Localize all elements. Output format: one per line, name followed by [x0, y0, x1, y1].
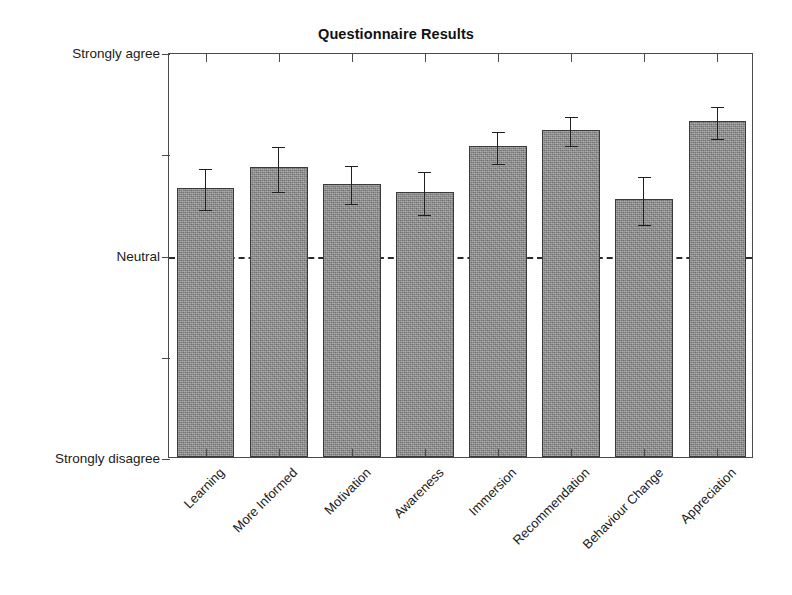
- y-axis-tick: [162, 257, 170, 258]
- bar-immersion: [469, 146, 527, 457]
- error-bar-cap-bottom: [345, 204, 358, 205]
- error-bar-cap-top: [418, 172, 431, 173]
- error-bar-stem: [351, 166, 352, 204]
- bar-texture: [324, 185, 380, 456]
- error-bar-cap-top: [711, 107, 724, 108]
- x-axis-tick-bottom: [425, 449, 426, 457]
- error-bar-stem: [570, 117, 571, 147]
- x-axis-label-awareness: Awareness: [391, 465, 447, 521]
- x-axis-tick-top: [498, 54, 499, 62]
- y-axis-tick: [162, 358, 170, 359]
- y-axis-tick: [162, 54, 170, 55]
- x-axis-tick-bottom: [498, 449, 499, 457]
- bar-awareness: [396, 192, 454, 457]
- bar-motivation: [323, 184, 381, 457]
- error-bar-stem: [643, 177, 644, 227]
- y-axis-label-strongly-disagree: Strongly disagree: [0, 451, 160, 466]
- x-axis-tick-top: [717, 54, 718, 62]
- error-bar-cap-top: [492, 132, 505, 133]
- x-axis-label-more-informed: More Informed: [230, 465, 300, 535]
- bar-texture: [251, 168, 307, 456]
- error-bar-cap-top: [345, 166, 358, 167]
- x-axis-label-learning: Learning: [181, 465, 227, 511]
- error-bar-cap-bottom: [565, 146, 578, 147]
- error-bar-cap-bottom: [638, 225, 651, 226]
- error-bar-stem: [717, 107, 718, 140]
- figure-canvas: Questionnaire Results Strongly disagreeN…: [0, 0, 792, 595]
- error-bar-cap-bottom: [418, 215, 431, 216]
- y-axis-tick: [162, 459, 170, 460]
- x-axis-tick-bottom: [717, 449, 718, 457]
- error-bar-stem: [205, 169, 206, 211]
- bar-behaviour-change: [615, 199, 673, 457]
- y-axis-label-neutral: Neutral: [0, 248, 160, 263]
- x-axis-label-behaviour-change: Behaviour Change: [579, 465, 666, 552]
- error-bar-cap-top: [199, 169, 212, 170]
- bar-recommendation: [542, 130, 600, 457]
- x-axis-tick-top: [644, 54, 645, 62]
- x-axis-label-immersion: Immersion: [466, 465, 520, 519]
- x-axis-label-motivation: Motivation: [321, 465, 374, 518]
- bar-texture: [543, 131, 599, 456]
- bar-learning: [177, 188, 235, 457]
- x-axis-tick-bottom: [352, 449, 353, 457]
- bar-appreciation: [689, 121, 747, 457]
- error-bar-cap-bottom: [711, 139, 724, 140]
- error-bar-cap-top: [272, 147, 285, 148]
- bar-texture: [470, 147, 526, 456]
- plot-axes: [168, 53, 753, 458]
- x-axis-tick-bottom: [206, 449, 207, 457]
- x-axis-label-appreciation: Appreciation: [677, 465, 739, 527]
- x-axis-tick-bottom: [571, 449, 572, 457]
- bar-texture: [178, 189, 234, 456]
- x-axis-tick-bottom: [644, 449, 645, 457]
- error-bar-cap-bottom: [492, 164, 505, 165]
- x-axis-tick-top: [279, 54, 280, 62]
- x-axis-tick-bottom: [279, 449, 280, 457]
- chart-title: Questionnaire Results: [0, 26, 792, 42]
- y-axis-tick: [162, 155, 170, 156]
- y-axis-label-strongly-agree: Strongly agree: [0, 46, 160, 61]
- bar-texture: [690, 122, 746, 456]
- error-bar-cap-bottom: [199, 210, 212, 211]
- error-bar-cap-top: [565, 117, 578, 118]
- x-axis-label-recommendation: Recommendation: [510, 465, 593, 548]
- bar-texture: [616, 200, 672, 456]
- bar-more-informed: [250, 167, 308, 457]
- error-bar-stem: [497, 132, 498, 165]
- x-axis-tick-top: [425, 54, 426, 62]
- error-bar-stem: [278, 147, 279, 193]
- error-bar-cap-top: [638, 177, 651, 178]
- bar-texture: [397, 193, 453, 456]
- error-bar-stem: [424, 172, 425, 216]
- error-bar-cap-bottom: [272, 192, 285, 193]
- x-axis-tick-top: [571, 54, 572, 62]
- x-axis-tick-top: [352, 54, 353, 62]
- x-axis-tick-top: [206, 54, 207, 62]
